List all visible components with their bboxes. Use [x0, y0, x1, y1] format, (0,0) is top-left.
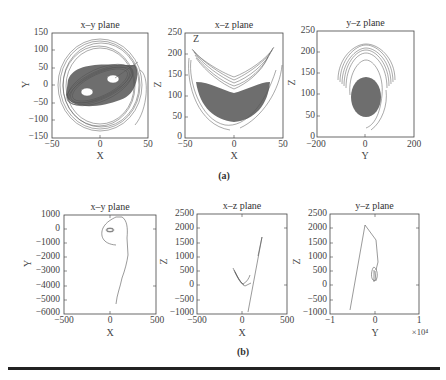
plot-title: y–z plane — [330, 200, 419, 211]
plot-b-xy — [64, 215, 156, 314]
plot-a-xy — [52, 33, 148, 138]
y-tick: 0 — [18, 223, 60, 233]
x-tick: 0 — [363, 315, 387, 325]
y-tick: −500 — [287, 294, 327, 304]
plot-b-xz — [197, 214, 287, 314]
y-tick: 50 — [16, 62, 48, 72]
y-axis-label: Z — [286, 79, 297, 85]
y-tick: 150 — [283, 67, 315, 77]
y-tick: −100 — [16, 114, 48, 124]
y-axis-label: Y — [20, 81, 31, 88]
y-tick: −4000 — [18, 280, 60, 290]
x-tick: 0 — [85, 139, 115, 149]
x-axis-label: X — [104, 327, 116, 338]
y-tick: 100 — [16, 44, 48, 54]
x-tick: −200 — [298, 139, 334, 149]
plot-title: y–z plane — [317, 17, 414, 28]
x-tick: 0 — [219, 139, 249, 149]
x-axis-label: X — [236, 327, 248, 338]
y-tick: 2000 — [154, 222, 194, 232]
x-axis-label: Y — [359, 150, 371, 161]
y-tick: −500 — [154, 294, 194, 304]
y-axis-label: Z — [158, 258, 169, 264]
y-tick: 1500 — [287, 237, 327, 247]
y-tick: 100 — [150, 90, 182, 100]
x-tick: −500 — [179, 315, 215, 325]
panel-label-b: (b) — [233, 346, 253, 357]
y-tick: 0 — [287, 279, 327, 289]
plot-title: x–y plane — [64, 201, 156, 212]
y-tick: 50 — [283, 110, 315, 120]
x-tick: 0 — [95, 315, 125, 325]
x-tick: −500 — [46, 315, 82, 325]
y-axis-label: Z — [291, 258, 302, 264]
x-tick: −50 — [170, 139, 200, 149]
y-tick: 500 — [287, 265, 327, 275]
panel-label-a: (a) — [214, 170, 234, 181]
y-tick: 50 — [150, 111, 182, 121]
y-tick: 1000 — [18, 209, 60, 219]
y-tick: 100 — [283, 88, 315, 98]
y-tick: 150 — [16, 27, 48, 37]
plot-annotation: Z — [193, 33, 199, 44]
y-tick: 0 — [154, 279, 194, 289]
x-tick: −1 — [318, 315, 342, 325]
y-tick: −5000 — [18, 294, 60, 304]
y-axis-label: Y — [22, 260, 33, 267]
bottom-rule — [8, 367, 440, 370]
y-tick: 250 — [283, 25, 315, 35]
y-tick: 1500 — [154, 237, 194, 247]
y-tick: 2500 — [154, 208, 194, 218]
x-axis-label: Y — [369, 327, 381, 338]
y-axis-label: Z — [152, 81, 163, 87]
y-tick: −50 — [16, 97, 48, 107]
x-tick: 200 — [396, 139, 432, 149]
x-tick: 0 — [350, 139, 380, 149]
plot-title: x–z plane — [185, 19, 283, 30]
y-tick: −1000 — [18, 237, 60, 247]
y-tick: 200 — [283, 46, 315, 56]
y-tick: 500 — [154, 265, 194, 275]
x-axis-multiplier: ×10⁴ — [402, 327, 438, 337]
plot-title: x–z plane — [197, 200, 287, 211]
y-tick: 150 — [150, 69, 182, 79]
y-tick: 2500 — [287, 208, 327, 218]
plot-title: x–y plane — [52, 19, 148, 30]
x-tick: −50 — [37, 139, 67, 149]
plot-b-yz — [330, 214, 419, 314]
x-axis-label: X — [228, 150, 240, 161]
y-tick: 200 — [150, 48, 182, 58]
x-tick: 1 — [407, 315, 431, 325]
plot-a-xz — [185, 33, 283, 138]
y-tick: 250 — [150, 27, 182, 37]
y-tick: 2000 — [287, 222, 327, 232]
plot-a-yz — [317, 31, 414, 137]
x-tick: 0 — [227, 315, 257, 325]
x-axis-label: X — [94, 150, 106, 161]
